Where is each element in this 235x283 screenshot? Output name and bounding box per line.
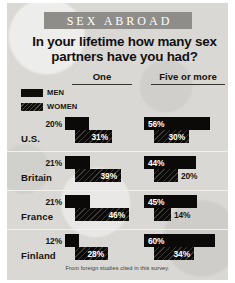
bar-britain-five-or-more-women: 20% bbox=[154, 169, 178, 182]
women-swatch-icon bbox=[21, 103, 43, 111]
bar-value: 44% bbox=[144, 158, 164, 168]
bar-value: 20% bbox=[181, 171, 197, 181]
country-label-britain: Britain bbox=[21, 172, 52, 183]
country-label-us: U.S. bbox=[21, 133, 40, 144]
bar-us-five-or-more-women: 30% bbox=[154, 130, 189, 143]
bar-us-one-men: 20% bbox=[65, 117, 89, 130]
legend-item-men: MEN bbox=[21, 87, 77, 98]
country-label-france: France bbox=[21, 211, 53, 222]
bar-value: 31% bbox=[92, 132, 112, 142]
column-header-one: One bbox=[72, 71, 132, 85]
bar-france-five-or-more-women: 14% bbox=[154, 208, 171, 221]
bar-us-five-or-more-men: 56% bbox=[144, 117, 210, 130]
bar-britain-one-women: 39% bbox=[75, 169, 121, 182]
bar-finland-five-or-more-men: 60% bbox=[144, 234, 215, 247]
chart-rows: U.S. 20% 31% 56% 30% bbox=[7, 113, 228, 268]
legend-item-women: WOMEN bbox=[21, 101, 77, 112]
bar-value: 14% bbox=[174, 210, 190, 220]
bar-value: 30% bbox=[169, 132, 189, 142]
bar-france-one-women: 46% bbox=[75, 208, 129, 221]
banner-title: SEX ABROAD bbox=[64, 15, 173, 27]
bar-britain-five-or-more-men: 44% bbox=[144, 156, 196, 169]
bar-value: 46% bbox=[109, 210, 129, 220]
column-header-five-or-more: Five or more bbox=[151, 71, 225, 85]
banner: SEX ABROAD bbox=[44, 12, 192, 29]
page-title: In your lifetime how many sex partners h… bbox=[17, 34, 232, 64]
bar-britain-one-men: 21% bbox=[65, 156, 90, 169]
column-header-five-or-more-label: Five or more bbox=[159, 71, 217, 82]
table-row: U.S. 20% 31% 56% 30% bbox=[7, 113, 228, 151]
table-row: Finland 12% 28% 60% 34% bbox=[7, 229, 228, 268]
legend-label-men: MEN bbox=[47, 88, 64, 97]
bar-value: 56% bbox=[144, 119, 164, 129]
table-row: Britain 21% 39% 44% 20% bbox=[7, 151, 228, 190]
bar-value: 20% bbox=[46, 119, 62, 129]
legend-label-women: WOMEN bbox=[47, 102, 77, 111]
column-header-five-or-more-rule bbox=[151, 84, 225, 85]
bar-us-one-women: 31% bbox=[75, 130, 112, 143]
infographic-page: SEX ABROAD In your lifetime how many sex… bbox=[0, 0, 235, 283]
legend: MEN WOMEN bbox=[21, 87, 77, 115]
bar-value: 12% bbox=[46, 236, 62, 246]
bar-value: 21% bbox=[46, 197, 62, 207]
bar-france-five-or-more-men: 45% bbox=[144, 195, 197, 208]
bar-finland-one-men: 12% bbox=[65, 234, 79, 247]
bar-finland-five-or-more-women: 34% bbox=[154, 247, 194, 260]
bar-value: 28% bbox=[88, 249, 108, 259]
bar-value: 39% bbox=[101, 171, 121, 181]
bar-france-one-men: 21% bbox=[65, 195, 90, 208]
table-row: France 21% 46% 45% 14% bbox=[7, 190, 228, 229]
country-label-finland: Finland bbox=[21, 250, 56, 261]
bar-value: 45% bbox=[144, 197, 164, 207]
bar-value: 34% bbox=[174, 249, 194, 259]
bar-finland-one-women: 28% bbox=[75, 247, 108, 260]
column-header-one-rule bbox=[72, 84, 132, 85]
chart-panel: SEX ABROAD In your lifetime how many sex… bbox=[7, 3, 228, 280]
footnote: From foreign studies cited in this surve… bbox=[7, 265, 228, 271]
men-swatch-icon bbox=[21, 89, 43, 97]
column-header-one-label: One bbox=[93, 71, 112, 82]
bar-value: 60% bbox=[144, 236, 164, 246]
bar-value: 21% bbox=[46, 158, 62, 168]
